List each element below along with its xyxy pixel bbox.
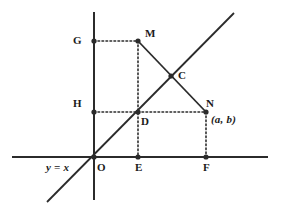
point-marker-f — [203, 154, 208, 159]
point-marker-n — [203, 109, 208, 114]
point-marker-h — [91, 109, 96, 114]
point-label-e: E — [135, 162, 143, 173]
point-marker-g — [91, 38, 96, 43]
point-label-o: O — [97, 162, 106, 173]
point-marker-d — [135, 109, 140, 114]
point-label-g: G — [73, 35, 82, 46]
point-label-c: C — [178, 70, 186, 81]
point-label-n: N — [206, 98, 214, 109]
point-label-f: F — [203, 162, 210, 173]
point-label-h: H — [73, 98, 82, 109]
geometry-figure: GMCHDNOEF y = x (a, b) — [0, 0, 282, 215]
point-marker-m — [135, 38, 140, 43]
point-label-m: M — [145, 28, 156, 39]
point-marker-c — [168, 73, 173, 78]
line-equation-label: y = x — [46, 162, 69, 173]
coordinate-pair-label: (a, b) — [211, 114, 236, 125]
point-marker-o — [91, 154, 96, 159]
point-marker-e — [135, 154, 140, 159]
point-label-d: D — [141, 116, 149, 127]
diagram-canvas — [0, 0, 282, 215]
